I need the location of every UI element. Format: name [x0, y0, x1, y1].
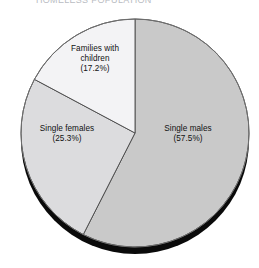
pie-chart-screenshot: HOMELESS POPULATION Families with childr…	[0, 0, 259, 268]
slice-label-families-with-children: Families with children (17.2%)	[52, 44, 138, 75]
slice-label-males-line1: Single males	[148, 124, 228, 134]
slice-label-families-line2: children	[52, 54, 138, 64]
slice-label-single-males: Single males (57.5%)	[148, 124, 228, 144]
slice-label-families-percent: (17.2%)	[52, 64, 138, 74]
slice-label-families-line1: Families with	[52, 44, 138, 54]
slice-label-females-percent: (25.3%)	[21, 134, 113, 144]
slice-label-single-females: Single females (25.3%)	[21, 124, 113, 144]
pie-chart: Families with children (17.2%) Single fe…	[0, 0, 259, 268]
slice-label-males-percent: (57.5%)	[148, 134, 228, 144]
slice-label-females-line1: Single females	[21, 124, 113, 134]
